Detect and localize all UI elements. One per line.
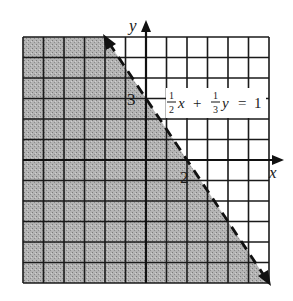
inequality-graph: y x 3 2 1 2 x + 1 3 y = 1 (0, 0, 293, 301)
svg-text:y: y (220, 95, 229, 111)
svg-text:2: 2 (169, 104, 174, 115)
y-intercept-label: 3 (127, 90, 136, 109)
equation-label: 1 2 x + 1 3 y = 1 (166, 88, 266, 118)
svg-text:+: + (193, 95, 201, 111)
svg-text:1: 1 (254, 95, 262, 111)
x-axis-label: x (268, 163, 277, 182)
svg-text:1: 1 (213, 90, 218, 101)
svg-text:=: = (238, 95, 246, 111)
x-intercept-label: 2 (180, 168, 189, 187)
y-axis-arrow-icon (141, 20, 151, 32)
svg-text:x: x (177, 95, 185, 111)
y-axis-label: y (127, 16, 137, 35)
svg-text:1: 1 (169, 90, 174, 101)
svg-text:3: 3 (213, 104, 218, 115)
